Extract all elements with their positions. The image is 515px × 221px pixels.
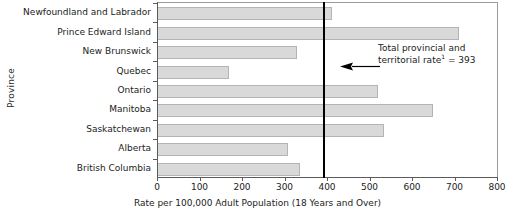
category-label: Alberta: [118, 142, 151, 155]
category-label: British Columbia: [77, 162, 151, 175]
x-axis-tick-label: 800: [488, 182, 505, 192]
y-axis-line: [157, 2, 158, 178]
annotation-line-1: Total provincial and: [378, 42, 514, 54]
category-label: Prince Edward Island: [57, 26, 151, 39]
bar: [157, 124, 384, 137]
category-label: Newfoundland and Labrador: [23, 6, 151, 19]
bar: [157, 143, 288, 156]
bar: [157, 163, 300, 176]
x-axis-tick-label: 300: [276, 182, 293, 192]
bar-chart-figure: Province Newfoundland and LabradorPrince…: [0, 0, 515, 221]
bar: [157, 27, 459, 40]
x-axis-tick: [412, 177, 413, 181]
x-axis-tick-label: 700: [446, 182, 463, 192]
category-axis-labels: Newfoundland and LabradorPrince Edward I…: [18, 6, 154, 177]
x-axis-tick: [497, 177, 498, 181]
y-axis-title-label: Province: [6, 68, 16, 108]
x-axis-tick: [200, 177, 201, 181]
category-label: Ontario: [117, 84, 151, 97]
bar: [157, 85, 378, 98]
total-rate-reference-line: [323, 2, 325, 178]
bar: [157, 66, 229, 79]
category-label: Manitoba: [109, 103, 151, 116]
category-label: New Brunswick: [83, 45, 151, 58]
category-label: Quebec: [116, 65, 151, 78]
bar: [157, 104, 433, 117]
annotation-arrow-icon: [340, 56, 380, 65]
x-axis-tick-label: 100: [191, 182, 208, 192]
x-axis-tick: [285, 177, 286, 181]
annotation-line-2-text: territorial rate: [378, 55, 441, 65]
x-axis-tick-label: 600: [403, 182, 420, 192]
x-axis-tick: [327, 177, 328, 181]
x-axis-tick: [242, 177, 243, 181]
total-rate-annotation: Total provincial and territorial rate1 =…: [378, 42, 514, 66]
annotation-line-2: territorial rate1 = 393: [378, 54, 514, 66]
plot-area: [157, 2, 498, 178]
x-axis-tick: [157, 177, 158, 181]
x-axis-tick-label: 0: [154, 182, 160, 192]
x-axis-title: Rate per 100,000 Adult Population (18 Ye…: [0, 198, 515, 208]
x-axis-tick-label: 500: [361, 182, 378, 192]
annotation-line-2-suffix: = 393: [445, 55, 475, 65]
x-axis-tick: [455, 177, 456, 181]
x-axis-tick-label: 200: [233, 182, 250, 192]
bar: [157, 46, 297, 59]
bar: [157, 7, 332, 20]
category-label: Saskatchewan: [86, 123, 151, 136]
x-axis-tick: [370, 177, 371, 181]
x-axis-tick-label: 400: [318, 182, 335, 192]
